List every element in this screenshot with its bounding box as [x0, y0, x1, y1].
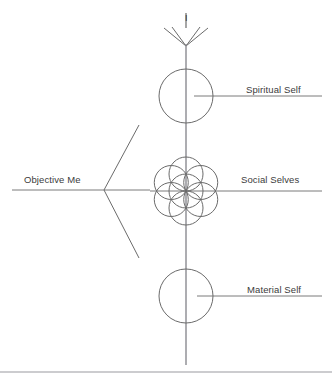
objective-me-arrowhead [104, 125, 139, 258]
label-social-selves: Social Selves [241, 174, 299, 185]
label-material-self: Material Self [247, 284, 301, 295]
label-spiritual-self: Spiritual Self [246, 84, 301, 95]
label-i: I [185, 13, 188, 24]
label-objective-me: Objective Me [24, 174, 81, 185]
james-self-diagram: I Spiritual Self Social Selves Material … [0, 0, 332, 380]
fan-arrow-icon [164, 27, 208, 46]
diagram-canvas [0, 0, 332, 380]
